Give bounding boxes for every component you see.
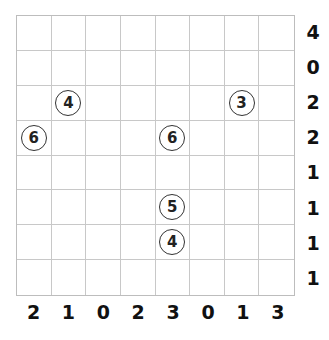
grid-cell[interactable] bbox=[259, 16, 294, 51]
row-clue: 1 bbox=[303, 161, 323, 183]
grid-cell[interactable] bbox=[225, 16, 260, 51]
row-clue: 4 bbox=[303, 21, 323, 43]
column-clue: 1 bbox=[225, 301, 260, 323]
grid-cell[interactable] bbox=[190, 51, 225, 86]
number-circle: 6 bbox=[21, 125, 47, 151]
grid-cell[interactable] bbox=[121, 86, 156, 121]
grid-cell[interactable] bbox=[86, 225, 121, 260]
column-clue: 0 bbox=[191, 301, 226, 323]
column-clue: 0 bbox=[86, 301, 121, 323]
grid-cell[interactable] bbox=[156, 86, 191, 121]
column-clue: 1 bbox=[51, 301, 86, 323]
grid-cell[interactable] bbox=[225, 190, 260, 225]
grid-cell[interactable] bbox=[86, 121, 121, 156]
grid-cell[interactable] bbox=[259, 225, 294, 260]
grid-cell[interactable] bbox=[190, 190, 225, 225]
grid-cell[interactable] bbox=[190, 121, 225, 156]
grid-cell[interactable] bbox=[121, 225, 156, 260]
grid-cell[interactable] bbox=[17, 190, 52, 225]
grid-cell[interactable] bbox=[156, 16, 191, 51]
number-circle: 5 bbox=[159, 194, 185, 220]
grid-cell[interactable] bbox=[52, 260, 87, 295]
grid-cell[interactable] bbox=[121, 51, 156, 86]
grid-cell[interactable] bbox=[156, 156, 191, 191]
number-circle: 4 bbox=[159, 229, 185, 255]
column-clue: 3 bbox=[260, 301, 295, 323]
grid-cell[interactable] bbox=[86, 51, 121, 86]
column-clue: 2 bbox=[16, 301, 51, 323]
grid-cell[interactable] bbox=[225, 51, 260, 86]
grid-cell[interactable] bbox=[225, 156, 260, 191]
column-clue: 2 bbox=[121, 301, 156, 323]
number-circle: 6 bbox=[159, 125, 185, 151]
grid-cell[interactable] bbox=[225, 121, 260, 156]
grid-cell[interactable] bbox=[52, 156, 87, 191]
grid-cell[interactable] bbox=[86, 190, 121, 225]
grid-cell[interactable] bbox=[86, 156, 121, 191]
grid-cell[interactable] bbox=[121, 16, 156, 51]
grid-cell[interactable] bbox=[52, 121, 87, 156]
grid-cell[interactable] bbox=[156, 51, 191, 86]
number-circle: 3 bbox=[229, 90, 255, 116]
grid-cell[interactable] bbox=[190, 260, 225, 295]
grid-cell[interactable] bbox=[190, 86, 225, 121]
grid-cell[interactable]: 4 bbox=[52, 86, 87, 121]
row-clue: 0 bbox=[303, 56, 323, 78]
grid-cell[interactable] bbox=[121, 190, 156, 225]
grid-cell[interactable] bbox=[225, 260, 260, 295]
grid-cell[interactable] bbox=[17, 86, 52, 121]
row-clue: 2 bbox=[303, 126, 323, 148]
row-clue: 1 bbox=[303, 232, 323, 254]
grid-cell[interactable] bbox=[17, 16, 52, 51]
grid-cell[interactable] bbox=[121, 260, 156, 295]
grid-cell[interactable] bbox=[17, 225, 52, 260]
grid-cell[interactable]: 4 bbox=[156, 225, 191, 260]
grid-cell[interactable] bbox=[259, 156, 294, 191]
grid-cell[interactable] bbox=[52, 225, 87, 260]
grid-cell[interactable] bbox=[259, 190, 294, 225]
grid-cell[interactable] bbox=[225, 225, 260, 260]
grid-cell[interactable] bbox=[259, 51, 294, 86]
row-clue: 1 bbox=[303, 197, 323, 219]
grid-cell[interactable] bbox=[52, 190, 87, 225]
grid-cell[interactable] bbox=[190, 156, 225, 191]
column-clue: 3 bbox=[156, 301, 191, 323]
grid-cell[interactable] bbox=[17, 51, 52, 86]
grid-cell[interactable] bbox=[86, 16, 121, 51]
grid-cell[interactable] bbox=[259, 260, 294, 295]
grid-cell[interactable] bbox=[86, 86, 121, 121]
row-clue: 1 bbox=[303, 267, 323, 289]
grid-cell[interactable] bbox=[52, 16, 87, 51]
grid-cell[interactable] bbox=[190, 225, 225, 260]
grid-cell[interactable] bbox=[86, 260, 121, 295]
grid-cell[interactable] bbox=[156, 260, 191, 295]
grid-cell[interactable] bbox=[121, 121, 156, 156]
grid-cell[interactable] bbox=[17, 260, 52, 295]
grid-cell[interactable]: 5 bbox=[156, 190, 191, 225]
puzzle-grid: 436654 bbox=[16, 15, 295, 296]
grid-cell[interactable]: 3 bbox=[225, 86, 260, 121]
grid-cell[interactable] bbox=[259, 121, 294, 156]
grid-cell[interactable] bbox=[121, 156, 156, 191]
grid-cell[interactable] bbox=[259, 86, 294, 121]
row-clue: 2 bbox=[303, 91, 323, 113]
grid-cell[interactable] bbox=[17, 156, 52, 191]
number-circle: 4 bbox=[55, 90, 81, 116]
grid-cell[interactable] bbox=[190, 16, 225, 51]
grid-cell[interactable]: 6 bbox=[17, 121, 52, 156]
grid-cell[interactable]: 6 bbox=[156, 121, 191, 156]
grid-cell[interactable] bbox=[52, 51, 87, 86]
